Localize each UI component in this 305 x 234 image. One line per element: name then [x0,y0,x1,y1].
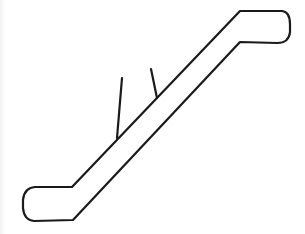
support-post-left [117,78,122,138]
escalator-body-outline [23,11,290,221]
escalator-icon [23,11,290,221]
support-post-right [151,69,157,98]
escalator-drawing [0,0,305,234]
